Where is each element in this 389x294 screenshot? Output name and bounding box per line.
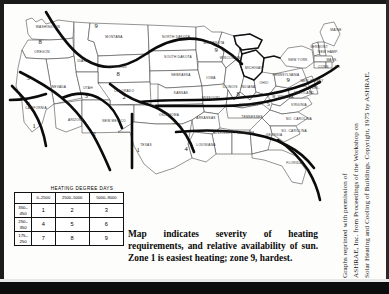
state-label: ILLINOIS [222,85,237,89]
zone-cell-0-1: 2 [55,204,89,218]
state-label: OHIO [259,81,268,85]
state-label: TENNESSEE [241,115,263,119]
scan-edge-left [0,0,4,294]
state-label: ARKANSAS [196,116,215,120]
scan-edge-top [0,0,389,4]
map-svg: WASHINGTONOREGONMONTANAIDAHOWYOMINGNORTH… [6,6,346,216]
zone-number: 3 [84,92,87,99]
credit-line-3: Solar Heating and Cooling of Buildings. … [363,71,371,278]
state-label: OREGON [34,50,50,54]
state-label: R.I. [335,65,341,69]
row-header-2: 175–250 [15,232,32,246]
zone-number: 1 [32,122,35,129]
table-header-row: 0–2500 2500–5000 5000–9000 [15,193,124,204]
state-label: NEVADA [52,85,67,89]
zone-number: 8 [38,38,41,45]
col-header-1: 2500–5000 [55,193,89,204]
state-label: TEXAS [140,143,152,147]
scan-edge-bottom [0,282,389,294]
legend-block: HEATING DEGREE DAYS MEAN DAILY SOLAR RAD… [14,186,126,246]
state-label: IDAHO [77,59,89,63]
table-row: 250–350456 [15,218,124,232]
state-label: GEORGIA [266,133,283,137]
us-zone-map: WASHINGTONOREGONMONTANAIDAHOWYOMINGNORTH… [6,6,346,216]
zone-matrix-table: 0–2500 2500–5000 5000–9000 350–450123250… [14,192,124,246]
zone-number: 5 [172,118,175,125]
state-label: UTAH [83,86,93,90]
zone-number: 2 [92,130,95,137]
state-label: NORTH DAKOTA [162,35,191,39]
table-row: 175–250789 [15,232,124,246]
credit-line-2: ASHRAE, Inc. from Proceedings of the Wor… [352,123,360,278]
state-label: WASHINGTON [36,25,61,29]
state-label: W. VIRGINIA [272,95,294,99]
state-label: WYOMING [109,65,127,69]
state-label: OKLAHOMA [159,113,180,117]
state-label: NO. CAROLINA [286,117,312,121]
zone-cell-1-1: 5 [55,218,89,232]
state-label: MISSOURI [202,96,220,100]
table-corner-cell [15,193,32,204]
zone-number: 8 [236,90,239,97]
state-label: MONTANA [105,35,123,39]
zone-number: 5 [26,74,29,81]
state-label: FLORIDA [286,161,302,165]
zone-cell-2-2: 9 [89,232,123,246]
zone-cell-2-1: 8 [55,232,89,246]
zone-cell-1-0: 4 [32,218,55,232]
zone-cell-1-2: 6 [89,218,123,232]
state-label: INDIANA [241,85,256,89]
state-label: MISSISSIPPI [213,131,235,135]
state-label: SO. CAROLINA [281,129,307,133]
state-label: SOUTH DAKOTA [164,55,193,59]
zone-number: 1 [136,146,139,153]
zone-cell-0-0: 1 [32,204,55,218]
credit-block: Graphs reprinted with permission of ASHR… [343,0,387,282]
state-label: ARIZONA [68,118,85,122]
state-label: MASS. [326,58,337,62]
figure-page: WASHINGTONOREGONMONTANAIDAHOWYOMINGNORTH… [0,0,389,294]
state-label: VIRGINIA [291,103,308,107]
state-label: LOUISIANA [196,143,216,147]
state-label: MARYLAND [294,91,314,95]
state-label: NEW MEXICO [102,119,126,123]
state-label: NEW JERSEY [300,79,324,83]
col-header-2: 5000–9000 [89,193,123,204]
state-label: MINNESOTA [204,41,226,45]
row-header-1: 250–350 [15,218,32,232]
state-label: MAINE [330,28,341,32]
table-body: 350–450123250–350456175–250789 [15,204,124,246]
figure-caption: Map indicates severity of heating requir… [128,228,318,265]
state-label: MICHIGAN [245,66,263,70]
zone-number: 2 [122,93,125,100]
zone-cell-0-2: 3 [89,204,123,218]
zone-number: 8 [116,70,119,77]
zone-number: 5 [266,100,269,107]
state-label: ALABAMA [238,131,255,135]
state-label: KENTUCKY [239,103,259,107]
state-label: NEW HAMP. [318,50,338,54]
legend-title: HEATING DEGREE DAYS [38,186,126,191]
state-label: VERMONT [310,45,328,49]
credit-line-1: Graphs reprinted with permission of [341,173,349,278]
state-label: KANSAS [174,91,188,95]
row-header-0: 350–450 [15,204,32,218]
state-label: IOWA [206,76,216,80]
table-row: 350–450123 [15,204,124,218]
state-label: NEW YORK [288,58,308,62]
col-header-0: 0–2500 [32,193,55,204]
zone-number: 9 [94,22,97,29]
zone-cell-2-0: 7 [32,232,55,246]
state-label: DEL. [312,86,320,90]
zone-number: 9 [214,46,217,53]
zone-number: 9 [286,76,289,83]
state-label: WISCONSIN [220,56,241,60]
state-label: CONN. [318,65,330,69]
state-label: NEBRASKA [171,73,191,77]
